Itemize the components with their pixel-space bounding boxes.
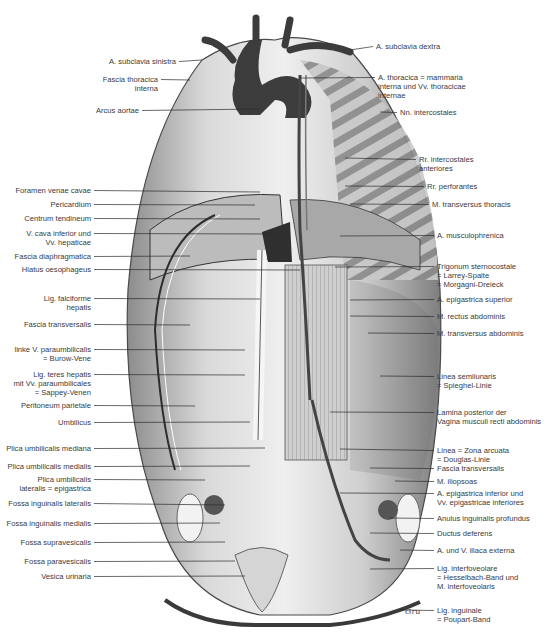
label-line: Lig. falciforme	[44, 294, 91, 303]
label-line: M. rectus abdominis	[437, 312, 505, 321]
label-anulus-inguinalis-profundus: Anulus inguinalis profundus	[437, 514, 530, 523]
label-line: = Larrey-Spalte	[437, 271, 516, 280]
rectus-abdominis	[285, 265, 347, 460]
label-v-paraumbilicalis: linke V. paraumbilicalis= Burow-Vene	[14, 345, 91, 363]
label-a-epigastrica-inferior: A. epigastrica inferior undVv. epigastri…	[437, 489, 524, 507]
label-lig-falciforme: Lig. falciformehepatis	[44, 294, 91, 312]
label-fascia-transversalis-left: Fascia transversalis	[24, 320, 91, 329]
leader-line	[370, 569, 434, 570]
label-line: A. musculophrenica	[437, 231, 504, 240]
label-a-v-iliaca-externa: A. und V. iliaca externa	[437, 546, 514, 555]
leader-line	[400, 550, 434, 551]
label-line: Pericardium	[50, 200, 91, 209]
label-line: A. subclavia sinistra	[109, 57, 176, 66]
leader-line	[350, 316, 434, 317]
leader-line	[390, 518, 434, 519]
leader-line	[179, 60, 202, 62]
label-lamina-posterior: Lamina posterior derVagina musculi recti…	[437, 408, 541, 426]
label-line: Fossa supravesicalis	[21, 538, 91, 547]
label-pericardium: Pericardium	[50, 200, 91, 209]
leader-line	[340, 493, 434, 494]
label-line: Fossa inguinalis medialis	[7, 519, 91, 528]
label-line: Vv. hepaticae	[26, 238, 91, 247]
label-arcus-aortae: Arcus aortae	[96, 106, 139, 115]
label-line: Centrum tendineum	[24, 214, 91, 223]
label-centrum-tendineum: Centrum tendineum	[24, 214, 91, 223]
label-line: anteriores	[419, 164, 473, 173]
label-plica-umbilicalis-mediana: Plica umbilicalis mediana	[6, 444, 91, 453]
label-linea-arcuata: Linea = Zona arcuata= Douglas-Linie	[437, 446, 509, 464]
label-line: Plica umbilicalis	[19, 475, 91, 484]
label-line: Umbilicus	[58, 418, 91, 427]
label-plica-umbilicalis-lateralis: Plica umbilicalislateralis = epigastrica	[19, 475, 91, 493]
label-hiatus-oesophageus: Hiatus oesophageus	[22, 265, 91, 274]
leader-line	[94, 270, 300, 271]
label-nn-intercostales: Nn. intercostales	[400, 108, 457, 117]
label-line: Lig. teres hepatis	[13, 370, 91, 379]
label-line: A. epigastrica inferior und	[437, 489, 524, 498]
label-m-transversus-abdominis: M. transversus abdominis	[437, 329, 524, 338]
label-a-epigastrica-superior: A. epigastrica superior	[437, 295, 513, 304]
label-rr-intercostales-anteriores: Rr. intercostalesanteriores	[419, 155, 473, 173]
label-lig-teres-hepatis: Lig. teres hepatismit Vv. paraumbilicale…	[13, 370, 91, 397]
label-line: mit Vv. paraumbilicales	[13, 379, 91, 388]
leader-line	[94, 448, 265, 449]
label-line: = Douglas-Linie	[437, 455, 509, 464]
label-fascia-thoracica-interna: Fascia thoracicainterna	[103, 75, 158, 93]
label-umbilicus: Umbilicus	[58, 418, 91, 427]
leader-line	[350, 300, 434, 301]
label-line: = Sappey-Venen	[13, 388, 91, 397]
leader-line	[395, 481, 434, 482]
label-plica-umbilicalis-medialis: Plica umbilicalis medialis	[7, 462, 91, 471]
label-line: Lamina posterior der	[437, 408, 541, 417]
leader-line	[350, 47, 373, 51]
label-line: M. interfoveolaris	[437, 582, 518, 591]
label-line: A. thoracica = mammaria	[378, 73, 466, 82]
label-line: Nn. intercostales	[400, 108, 457, 117]
label-line: Trigonum sternocostale	[437, 262, 516, 271]
label-line: M. iliopsoas	[437, 477, 477, 486]
leader-line	[94, 256, 190, 257]
label-line: Foramen venae cavae	[15, 186, 91, 195]
label-ductus-deferens: Ductus deferens	[437, 529, 492, 538]
label-trigonum-sternocostale: Trigonum sternocostale= Larrey-Spalte= M…	[437, 262, 516, 289]
label-a-musculophrenica: A. musculophrenica	[437, 231, 504, 240]
label-line: A. subclavia dextra	[376, 42, 440, 51]
label-line: Plica umbilicalis medialis	[7, 462, 91, 471]
label-line: Vagina musculi recti abdominis	[437, 417, 541, 426]
leader-line	[94, 480, 205, 481]
label-fossa-supravesicalis: Fossa supravesicalis	[21, 538, 91, 547]
leader-line	[94, 422, 250, 423]
leader-line	[161, 80, 190, 81]
label-fossa-inguinalis-lateralis: Fossa inguinalis lateralis	[8, 499, 91, 508]
leader-line	[368, 333, 434, 334]
label-linea-semilunaris: Linea semilunaris= Spieghel-Linie	[437, 372, 496, 390]
label-line: M. transversus thoracis	[432, 200, 511, 209]
label-line: linke V. paraumbilicalis	[14, 345, 91, 354]
inguinal-ring-left	[177, 494, 203, 542]
label-line: Hiatus oesophageus	[22, 265, 91, 274]
label-line: Peritoneum parietale	[21, 401, 91, 410]
label-line: Fascia transversalis	[24, 320, 91, 329]
label-line: Linea = Zona arcuata	[437, 446, 509, 455]
leader-line	[300, 78, 375, 79]
leader-line	[94, 299, 260, 300]
leader-line	[94, 234, 275, 235]
label-line: A. und V. iliaca externa	[437, 546, 514, 555]
label-line: V. cava inferior und	[26, 229, 91, 238]
label-a-subclavia-sinistra: A. subclavia sinistra	[109, 57, 176, 66]
artist-signature: Gru	[405, 607, 420, 616]
leader-line	[94, 406, 195, 407]
label-line: Ductus deferens	[437, 529, 492, 538]
label-vesica-urinaria: Vesica urinaria	[41, 572, 91, 581]
label-line: Fossa inguinalis lateralis	[8, 499, 91, 508]
label-m-transversus-thoracis: M. transversus thoracis	[432, 200, 511, 209]
label-line: = Hesselbach-Band und	[437, 573, 518, 582]
label-line: Fascia thoracica	[103, 75, 158, 84]
label-line: internae	[378, 91, 466, 100]
label-line: Linea semilunaris	[437, 372, 496, 381]
label-line: Arcus aortae	[96, 106, 139, 115]
label-line: Lig. interfoveolare	[437, 564, 518, 573]
label-line: Fascia transversalis	[437, 464, 504, 473]
label-m-rectus-abdominis: M. rectus abdominis	[437, 312, 505, 321]
